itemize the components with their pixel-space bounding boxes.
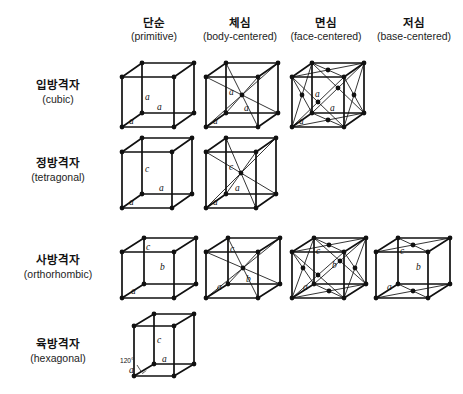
axis-label-b-horizontal: b bbox=[160, 262, 165, 272]
axis-label-a-horizontal: a bbox=[330, 103, 335, 113]
axis-label-c-vertical: a bbox=[315, 89, 320, 99]
row-label-tetragonal-ko: 정방격자 bbox=[2, 156, 114, 171]
body-center-node bbox=[240, 93, 245, 98]
row-label-cubic-ko: 입방격자 bbox=[2, 78, 114, 93]
axis-label-c-vertical: c bbox=[157, 335, 162, 345]
body-center-node bbox=[241, 266, 246, 271]
axis-label-c-vertical: c bbox=[316, 246, 321, 256]
row-label-cubic-en: (cubic) bbox=[2, 93, 114, 107]
face-center-node-left bbox=[301, 266, 306, 271]
face-center-node-front bbox=[316, 100, 321, 105]
axis-label-a-horizontal: a bbox=[159, 183, 164, 193]
column-header-face-centered: 면심 (face-centered) bbox=[278, 16, 374, 44]
column-header-primitive: 단순 (primitive) bbox=[112, 16, 196, 44]
row-label-hexagonal-ko: 육방격자 bbox=[2, 337, 114, 352]
cell-tetragonal-body-centered: c a a bbox=[196, 132, 288, 216]
cell-tetragonal-primitive: c a a bbox=[112, 132, 204, 216]
cell-cubic-face-centered: a a a bbox=[282, 55, 374, 139]
angle-leader-line bbox=[137, 365, 142, 372]
row-label-hexagonal-en: (hexagonal) bbox=[2, 352, 114, 366]
axis-label-a-horizontal: a bbox=[244, 103, 249, 113]
face-center-node-right bbox=[352, 93, 357, 98]
cell-orthorhombic-body-centered: c b a bbox=[196, 228, 288, 312]
row-label-hexagonal: 육방격자 (hexagonal) bbox=[2, 337, 114, 366]
axis-label-a-depth: a bbox=[131, 286, 136, 296]
axis-label-a-horizontal: a bbox=[162, 354, 167, 364]
row-label-tetragonal-en: (tetragonal) bbox=[2, 171, 114, 185]
row-label-orthorhombic-en: (orthorhombic) bbox=[2, 268, 114, 282]
face-center-node-front bbox=[316, 273, 321, 278]
column-header-primitive-en: (primitive) bbox=[112, 30, 196, 43]
cell-orthorhombic-face-centered: c b a bbox=[282, 228, 374, 312]
axis-label-a-depth: a bbox=[217, 282, 222, 292]
axis-label-a-depth: a bbox=[299, 116, 304, 126]
column-header-body-centered-en: (body-centered) bbox=[190, 30, 290, 43]
face-center-node-right bbox=[353, 266, 358, 271]
axis-label-a-horizontal: a bbox=[157, 102, 162, 112]
row-label-tetragonal: 정방격자 (tetragonal) bbox=[2, 156, 114, 185]
face-center-node-back bbox=[338, 259, 343, 264]
face-center-node-top bbox=[326, 68, 331, 73]
column-header-face-centered-en: (face-centered) bbox=[278, 30, 374, 43]
angle-label-120: 120° bbox=[120, 357, 134, 364]
row-label-orthorhombic: 사방격자 (orthorhombic) bbox=[2, 253, 114, 282]
axis-label-a-depth: a bbox=[303, 282, 308, 292]
axis-label-b-horizontal: b bbox=[246, 274, 251, 284]
axis-label-a-depth: a bbox=[129, 116, 134, 126]
axis-label-c-vertical: c bbox=[229, 162, 234, 172]
body-center-node bbox=[239, 171, 244, 176]
axis-label-a-depth: a bbox=[213, 116, 218, 126]
column-header-primitive-ko: 단순 bbox=[112, 16, 196, 30]
axis-label-c-vertical: a bbox=[229, 87, 234, 97]
face-center-node-bottom bbox=[326, 118, 331, 123]
cell-orthorhombic-base-centered: c b a bbox=[366, 228, 458, 312]
row-label-orthorhombic-ko: 사방격자 bbox=[2, 253, 114, 268]
axis-label-c-vertical: c bbox=[145, 164, 150, 174]
base-center-node-bottom bbox=[411, 289, 416, 294]
face-center-node-back bbox=[336, 86, 341, 91]
axis-label-b-horizontal: b bbox=[416, 262, 421, 272]
column-header-base-centered-ko: 저심 bbox=[366, 16, 462, 30]
axis-label-a-depth: a bbox=[213, 197, 218, 207]
axis-label-c-vertical: c bbox=[146, 242, 151, 252]
bravais-lattice-figure: 단순 (primitive) 체심 (body-centered) 면심 (fa… bbox=[0, 0, 463, 394]
base-center-node-top bbox=[411, 243, 416, 248]
column-header-body-centered: 체심 (body-centered) bbox=[190, 16, 290, 44]
column-header-base-centered: 저심 (base-centered) bbox=[366, 16, 462, 44]
cell-cubic-primitive: a a a bbox=[112, 55, 204, 139]
axis-label-b-horizontal: b bbox=[332, 260, 337, 270]
axis-label-a-depth: a bbox=[129, 365, 134, 375]
face-center-node-left bbox=[300, 93, 305, 98]
cell-orthorhombic-primitive: c b a bbox=[112, 228, 204, 312]
cell-cubic-body-centered: a a a bbox=[196, 55, 288, 139]
axis-label-c-vertical: c bbox=[400, 246, 405, 256]
axis-label-a-horizontal: a bbox=[235, 183, 240, 193]
axis-label-a-depth: a bbox=[387, 282, 392, 292]
column-header-body-centered-ko: 체심 bbox=[190, 16, 290, 30]
column-header-base-centered-en: (base-centered) bbox=[366, 30, 462, 43]
column-header-face-centered-ko: 면심 bbox=[278, 16, 374, 30]
row-label-cubic: 입방격자 (cubic) bbox=[2, 78, 114, 107]
cell-hexagonal-primitive: c a a 120° bbox=[112, 312, 204, 394]
axis-label-c-vertical: a bbox=[145, 92, 150, 102]
axis-label-a-depth: a bbox=[129, 197, 134, 207]
face-center-node-bottom bbox=[327, 289, 332, 294]
face-center-node-top bbox=[327, 243, 332, 248]
